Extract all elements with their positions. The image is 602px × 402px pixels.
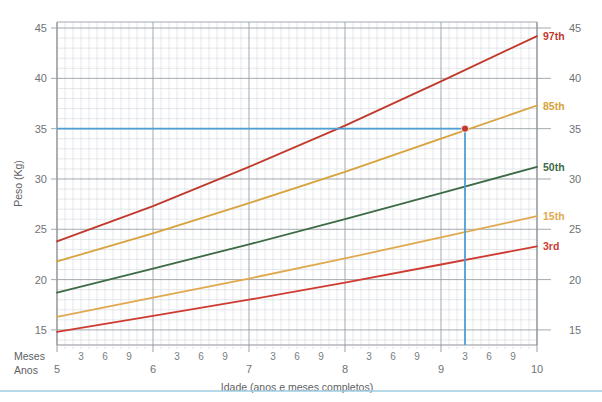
x-axis-row-caption-meses: Meses [14, 350, 45, 362]
y-tick-label-right: 25 [569, 223, 581, 235]
percentile-label-97th: 97th [543, 30, 565, 42]
x-tick-label-year: 6 [150, 363, 156, 375]
x-tick-label-month: 3 [270, 351, 276, 362]
x-tick-label-year: 8 [342, 363, 348, 375]
x-tick-label-month: 6 [102, 351, 108, 362]
x-tick-label-year: 5 [54, 363, 60, 375]
y-tick-label-right: 15 [569, 324, 581, 336]
growth-chart-svg: 1520253035404515202530354045Peso (Kg)567… [0, 0, 602, 402]
percentile-label-50th: 50th [543, 161, 565, 173]
x-tick-label-month: 6 [198, 351, 204, 362]
x-tick-label-month: 9 [126, 351, 132, 362]
x-tick-label-month: 9 [318, 351, 324, 362]
y-tick-label-right: 45 [569, 22, 581, 34]
y-tick-label-left: 45 [35, 22, 47, 34]
x-tick-label-month: 3 [78, 351, 84, 362]
percentile-label-3rd: 3rd [543, 240, 559, 252]
percentile-label-85th: 85th [543, 100, 565, 112]
data-point-marker[interactable] [461, 125, 468, 132]
x-tick-label-month: 3 [462, 351, 468, 362]
percentile-label-15th: 15th [543, 210, 565, 222]
y-tick-label-left: 30 [35, 173, 47, 185]
x-axis-row-caption-anos: Anos [14, 364, 38, 376]
y-tick-label-right: 30 [569, 173, 581, 185]
x-tick-label-month: 6 [486, 351, 492, 362]
y-tick-label-right: 20 [569, 274, 581, 286]
x-tick-label-month: 3 [366, 351, 372, 362]
y-axis-title: Peso (Kg) [12, 160, 24, 207]
y-tick-label-left: 35 [35, 123, 47, 135]
y-tick-label-left: 25 [35, 223, 47, 235]
growth-chart: 1520253035404515202530354045Peso (Kg)567… [0, 0, 602, 402]
y-tick-label-right: 35 [569, 123, 581, 135]
y-tick-label-right: 40 [569, 72, 581, 84]
x-tick-label-month: 9 [414, 351, 420, 362]
x-tick-label-year: 10 [531, 363, 543, 375]
y-tick-label-left: 40 [35, 72, 47, 84]
x-tick-label-year: 9 [438, 363, 444, 375]
x-tick-label-month: 3 [174, 351, 180, 362]
x-tick-label-month: 6 [390, 351, 396, 362]
x-tick-label-year: 7 [246, 363, 252, 375]
y-tick-label-left: 15 [35, 324, 47, 336]
x-tick-label-month: 9 [510, 351, 516, 362]
x-tick-label-month: 9 [222, 351, 228, 362]
x-tick-label-month: 6 [294, 351, 300, 362]
y-tick-label-left: 20 [35, 274, 47, 286]
